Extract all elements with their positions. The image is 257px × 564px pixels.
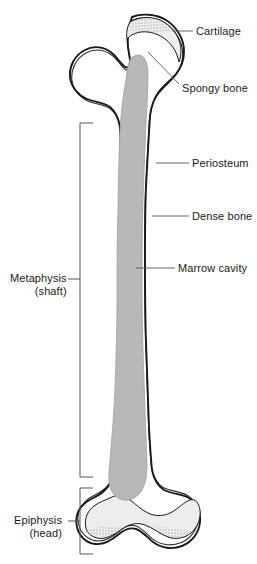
label-cartilage: Cartilage bbox=[196, 25, 241, 38]
label-spongy-bone: Spongy bone bbox=[182, 82, 248, 95]
marrow-cavity-region bbox=[109, 55, 148, 500]
label-epiphysis: Epiphysis(head) bbox=[14, 514, 62, 540]
label-metaphysis-title: Metaphysis bbox=[10, 272, 67, 284]
label-periosteum: Periosteum bbox=[192, 157, 249, 170]
label-metaphysis: Metaphysis(shaft) bbox=[10, 272, 67, 298]
label-dense-bone: Dense bone bbox=[192, 210, 252, 223]
label-metaphysis-subtitle: (shaft) bbox=[10, 285, 67, 298]
bone-anatomy-figure: CartilageSpongy bonePeriosteumDense bone… bbox=[0, 0, 257, 564]
label-epiphysis-subtitle: (head) bbox=[14, 527, 62, 540]
label-marrow-cavity: Marrow cavity bbox=[178, 262, 247, 275]
region-brackets-left bbox=[68, 123, 93, 554]
bracket-metaphysis bbox=[80, 123, 93, 477]
label-epiphysis-title: Epiphysis bbox=[14, 514, 62, 526]
